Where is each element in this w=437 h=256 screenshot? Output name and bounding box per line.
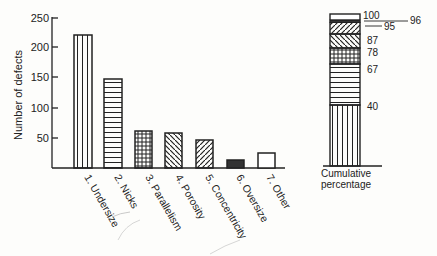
y-tick-100: 100 <box>31 102 49 114</box>
cum-label-78: 78 <box>367 47 379 58</box>
cum-seg-porosity <box>330 34 360 48</box>
cum-label-87: 87 <box>367 35 379 46</box>
category-label-other: 7. Other <box>264 172 294 211</box>
cum-seg-other <box>330 14 360 20</box>
pareto-chart: 250 200 150 100 50 Number of defects 1. … <box>0 0 437 256</box>
cum-seg-concentricity <box>330 22 360 34</box>
y-axis-label: Number of defects <box>12 50 24 140</box>
cum-seg-undersize <box>330 105 360 166</box>
y-tick-250: 250 <box>31 12 49 24</box>
y-tick-150: 150 <box>31 71 49 83</box>
cum-title-line1: Cumulative <box>321 168 371 179</box>
bar-parallelism <box>135 131 152 168</box>
cum-label-100: 100 <box>363 10 380 21</box>
pencil-mark <box>210 240 240 254</box>
cum-seg-parallelism <box>330 48 360 64</box>
cumulative-bar: 100 96 95 87 78 67 40 Cumulative percent… <box>321 10 422 190</box>
cum-label-95: 95 <box>384 21 396 32</box>
cum-seg-nicks <box>330 64 360 105</box>
category-label-nicks: 2. Nicks <box>112 172 141 210</box>
bar-undersize <box>74 35 92 168</box>
y-tick-200: 200 <box>31 41 49 53</box>
cum-label-67: 67 <box>367 64 379 75</box>
x-category-labels: 1. Undersize 2. Nicks 3. Parallelism 4. … <box>82 172 294 241</box>
bar-nicks <box>104 79 122 168</box>
cum-label-96: 96 <box>410 15 422 26</box>
bar-oversize <box>227 160 244 168</box>
bar-porosity <box>165 133 182 168</box>
bar-concentricity <box>196 140 213 168</box>
y-axis: 250 200 150 100 50 Number of defects <box>12 12 58 168</box>
cum-title-line2: percentage <box>321 179 371 190</box>
y-tick-50: 50 <box>37 132 49 144</box>
cum-label-40: 40 <box>367 101 379 112</box>
bars <box>74 35 275 168</box>
bar-other <box>258 153 275 168</box>
